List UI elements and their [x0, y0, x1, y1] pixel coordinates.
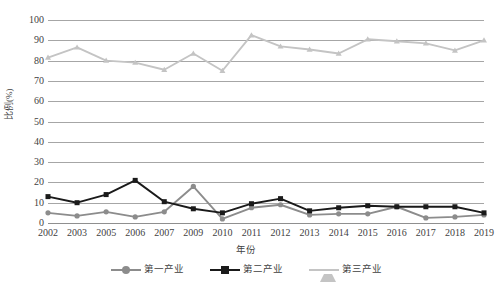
series-1 [45, 184, 486, 222]
plot-area [48, 20, 484, 223]
data-point [162, 199, 167, 204]
legend-item-2[interactable]: 第二产业 [210, 264, 283, 275]
data-point [482, 210, 487, 215]
data-point [133, 214, 138, 219]
legend-item-3[interactable]: 第三产业 [309, 264, 382, 275]
legend-swatch-square-icon [210, 264, 240, 275]
chart-legend: 第一产业第二产业第三产业 [0, 264, 492, 275]
series-group [48, 20, 484, 223]
data-point [191, 184, 196, 189]
data-point [481, 37, 487, 42]
data-point [423, 204, 428, 209]
data-point [74, 213, 79, 218]
x-tick-label: 2019 [467, 227, 499, 239]
y-tick-label: 50 [4, 117, 44, 127]
legend-item-1[interactable]: 第一产业 [111, 264, 184, 275]
data-point [452, 204, 457, 209]
data-point [133, 178, 138, 183]
gridline-0 [48, 223, 484, 224]
data-point [75, 200, 80, 205]
legend-label: 第三产业 [342, 264, 382, 275]
data-point [307, 208, 312, 213]
x-axis-tick-labels: 2002200320052006200720092010201120122013… [48, 227, 484, 243]
data-point [190, 50, 196, 55]
data-point [365, 203, 370, 208]
y-tick-label: 70 [4, 76, 44, 86]
data-point [104, 209, 109, 214]
series-2 [46, 178, 487, 215]
legend-label: 第二产业 [243, 264, 283, 275]
data-point [220, 210, 225, 215]
data-point [278, 196, 283, 201]
data-point [45, 210, 50, 215]
data-point [336, 205, 341, 210]
legend-marker [221, 266, 229, 274]
series-line [48, 35, 484, 71]
legend-marker [320, 266, 336, 282]
data-point [46, 194, 51, 199]
y-tick-label: 90 [4, 35, 44, 45]
legend-swatch-circle-icon [111, 264, 141, 275]
data-point [74, 44, 80, 49]
x-axis-title: 年份 [0, 245, 492, 256]
y-tick-label: 30 [4, 157, 44, 167]
y-axis-tick-labels: 1009080706050403020100 [0, 20, 44, 223]
y-tick-label: 100 [4, 15, 44, 25]
legend-swatch-triangle-icon [309, 264, 339, 275]
data-point [423, 215, 428, 220]
data-point [394, 204, 399, 209]
data-point [278, 202, 283, 207]
data-point [248, 32, 254, 37]
y-tick-label: 10 [4, 198, 44, 208]
y-tick-label: 60 [4, 96, 44, 106]
series-line [48, 180, 484, 212]
series-3 [45, 32, 487, 73]
data-point [336, 211, 341, 216]
data-point [162, 209, 167, 214]
data-point [220, 216, 225, 221]
data-point [191, 206, 196, 211]
data-point [365, 211, 370, 216]
legend-marker [122, 266, 130, 274]
y-tick-label: 40 [4, 137, 44, 147]
data-point [452, 214, 457, 219]
data-point [249, 201, 254, 206]
legend-label: 第一产业 [144, 264, 184, 275]
data-point [104, 192, 109, 197]
y-tick-label: 80 [4, 56, 44, 66]
y-tick-label: 20 [4, 177, 44, 187]
